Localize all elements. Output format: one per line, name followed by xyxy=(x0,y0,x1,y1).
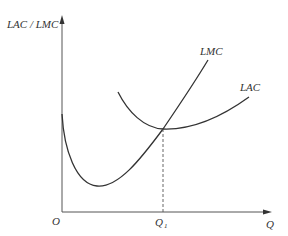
lmc-curve xyxy=(62,60,208,186)
y-axis-arrow-icon xyxy=(60,15,65,24)
lmc-label: LMC xyxy=(199,45,223,57)
origin-label: O xyxy=(52,215,60,227)
lac-label: LAC xyxy=(239,81,261,93)
q1-subscript: 1 xyxy=(164,222,168,230)
q1-label: Q xyxy=(155,216,163,228)
x-axis-arrow-icon xyxy=(263,210,272,215)
y-axis-label: LAC / LMC xyxy=(6,18,59,30)
x-axis-label: Q xyxy=(266,218,274,230)
cost-curves-chart: LAC / LMC O Q Q 1 LMC LAC xyxy=(0,0,288,236)
